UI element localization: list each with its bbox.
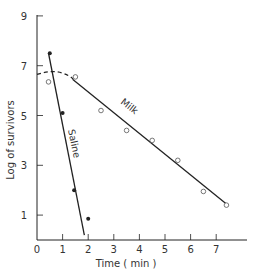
chart-canvas: 1357901234567 Saline Milk Time ( min ) L… [0, 0, 255, 272]
x-axis-title: Time ( min ) [95, 258, 157, 269]
milk-point-marker [99, 108, 104, 113]
x-tick-label: 6 [187, 244, 193, 255]
milk-point-marker [201, 189, 206, 194]
y-tick-label: 9 [21, 11, 27, 22]
x-tick-label: 1 [59, 244, 65, 255]
y-tick-label: 7 [21, 61, 27, 72]
x-tick-label: 0 [34, 244, 40, 255]
saline-point-marker [61, 111, 65, 115]
milk-point-marker [224, 203, 229, 208]
y-tick-label: 1 [21, 210, 27, 221]
survival-chart: 1357901234567 Saline Milk Time ( min ) L… [0, 0, 255, 272]
x-tick-label: 7 [213, 244, 219, 255]
milk-point-marker [124, 128, 129, 133]
milk-series-label: Milk [119, 96, 141, 117]
saline-point-marker [48, 51, 52, 55]
axes: 1357901234567 [21, 11, 247, 255]
x-tick-label: 5 [162, 244, 168, 255]
x-tick-label: 3 [111, 244, 117, 255]
milk-point-marker [73, 75, 78, 80]
x-tick-label: 4 [136, 244, 142, 255]
fit-lines [37, 53, 226, 235]
y-tick-label: 3 [21, 160, 27, 171]
saline-point-marker [86, 217, 90, 221]
milk-fit-line [73, 79, 227, 204]
y-axis-title: Log of survivors [5, 100, 16, 180]
milk-point-marker [46, 80, 51, 85]
saline-point-marker [72, 188, 76, 192]
x-tick-label: 2 [85, 244, 91, 255]
milk-point-marker [176, 158, 181, 163]
milk-shoulder-dashed-curve [37, 72, 73, 80]
milk-point-marker [150, 138, 155, 143]
y-tick-label: 5 [21, 111, 27, 122]
